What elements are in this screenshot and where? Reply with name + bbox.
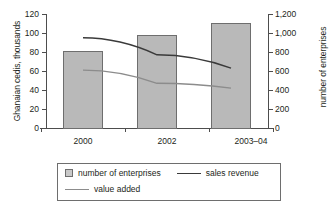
chart-legend: number of enterprises sales revenue valu… — [57, 163, 281, 201]
legend-line-icon-value-added — [65, 189, 89, 190]
x-axis-label-2003-04: 2003–04 — [216, 136, 286, 146]
legend-line-icon-sales-revenue — [177, 173, 201, 174]
y-axis-right-tick-label: 400 — [275, 85, 315, 95]
legend-row-primary: number of enterprises sales revenue — [65, 168, 259, 178]
y-axis-right-tick — [269, 90, 273, 91]
y-axis-left-tick-label: 60 — [0, 66, 39, 76]
y-axis-left-tick-label: 120 — [0, 9, 39, 19]
line-value-added — [83, 70, 231, 88]
y-axis-right-tick-label: 1,200 — [275, 9, 315, 19]
y-axis-left-tick-label: 20 — [0, 104, 39, 114]
y-axis-left-tick-label: 0 — [0, 123, 39, 133]
y-axis-right-tick-label: 1,000 — [275, 28, 315, 38]
y-axis-left-tick-label: 40 — [0, 85, 39, 95]
legend-swatch-icon — [65, 169, 73, 177]
y-axis-right-tick-label: 600 — [275, 66, 315, 76]
legend-label-number-of-enterprises[interactable]: number of enterprises — [78, 168, 161, 178]
y-axis-right-title: number of enterprises — [318, 12, 328, 122]
x-axis-tick — [125, 128, 126, 132]
y-axis-right-tick — [269, 71, 273, 72]
x-axis-tick — [41, 128, 42, 132]
y-axis-right-tick — [269, 14, 273, 15]
y-axis-right-tick-label: 200 — [275, 104, 315, 114]
x-axis-label-2002: 2002 — [132, 136, 202, 146]
x-axis-tick — [209, 128, 210, 132]
chart-container: Ghanaian cedis, thousands number of ente… — [0, 0, 335, 207]
y-axis-right-tick — [269, 33, 273, 34]
y-axis-right-tick-label: 0 — [275, 123, 315, 133]
y-axis-right-tick-label: 800 — [275, 47, 315, 57]
line-sales-revenue — [83, 38, 231, 68]
x-axis-tick — [273, 128, 274, 132]
legend-row-secondary: value added — [65, 184, 140, 194]
x-axis-label-2000: 2000 — [48, 136, 118, 146]
legend-label-sales-revenue[interactable]: sales revenue — [206, 168, 259, 178]
y-axis-left-tick-label: 100 — [0, 28, 39, 38]
y-axis-right-tick — [269, 109, 273, 110]
legend-label-value-added[interactable]: value added — [94, 184, 140, 194]
y-axis-right-tick — [269, 52, 273, 53]
series-lines — [46, 14, 268, 129]
y-axis-left-tick-label: 80 — [0, 47, 39, 57]
